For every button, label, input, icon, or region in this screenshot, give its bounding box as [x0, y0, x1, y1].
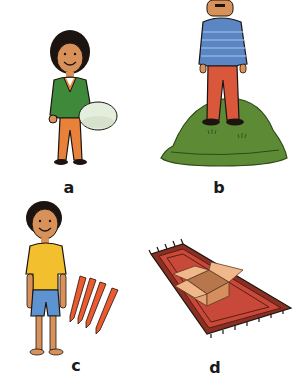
pens-group — [70, 276, 118, 334]
panel-d: d — [151, 194, 302, 388]
panel-c: c — [0, 194, 151, 388]
panel-d-label: d — [205, 358, 225, 377]
man-on-hill-illustration — [151, 0, 302, 194]
girl-with-egg-illustration — [0, 0, 151, 194]
panel-a: a — [0, 0, 151, 194]
panel-b: b — [151, 0, 302, 194]
box-on-rug-illustration — [151, 194, 302, 388]
panel-c-label: c — [66, 356, 86, 375]
